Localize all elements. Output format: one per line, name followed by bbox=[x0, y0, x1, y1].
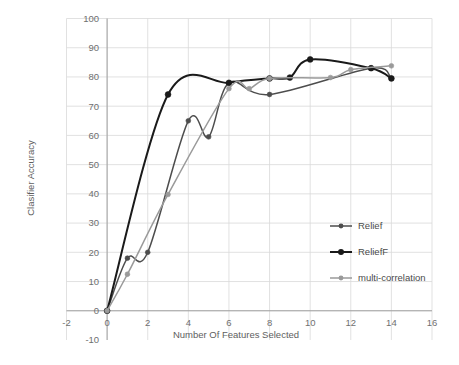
data-point-marker bbox=[328, 75, 333, 80]
chart-legend: ReliefReliefFmulti-correlation bbox=[330, 220, 426, 283]
y-axis-title: Clasifier Accuracy bbox=[25, 140, 36, 216]
x-tick-label: 8 bbox=[267, 317, 272, 328]
x-tick-label: 16 bbox=[427, 317, 438, 328]
data-point-marker bbox=[389, 63, 394, 68]
data-point-marker bbox=[125, 272, 130, 277]
y-tick-label: 20 bbox=[89, 247, 100, 258]
data-point-marker bbox=[206, 134, 211, 139]
x-tick-label: 6 bbox=[226, 317, 231, 328]
y-tick-label: 60 bbox=[89, 130, 100, 141]
y-tick-label: 30 bbox=[89, 217, 100, 228]
x-tick-label: 12 bbox=[345, 317, 356, 328]
legend-label: ReliefF bbox=[358, 246, 388, 257]
line-chart: -100102030405060708090100 -2024681012141… bbox=[0, 0, 459, 365]
x-axis-tick-labels: -20246810121416 bbox=[62, 317, 437, 328]
legend-item-relief[interactable]: Relief bbox=[330, 220, 383, 231]
series-line bbox=[107, 66, 391, 311]
data-point-marker bbox=[145, 250, 150, 255]
data-point-marker bbox=[267, 92, 272, 97]
y-tick-label: 80 bbox=[89, 71, 100, 82]
y-tick-label: -10 bbox=[85, 334, 99, 345]
y-tick-label: 40 bbox=[89, 188, 100, 199]
x-tick-label: 4 bbox=[186, 317, 191, 328]
x-tick-label: 14 bbox=[386, 317, 397, 328]
y-axis-tick-labels: -100102030405060708090100 bbox=[83, 13, 99, 346]
legend-marker-swatch bbox=[339, 276, 344, 281]
y-tick-label: 70 bbox=[89, 101, 100, 112]
legend-item-relieff[interactable]: ReliefF bbox=[330, 246, 388, 257]
x-axis-title: Number Of Features Selected bbox=[173, 329, 299, 340]
data-point-marker bbox=[166, 192, 171, 197]
data-point-marker bbox=[307, 57, 313, 63]
data-point-marker bbox=[165, 92, 171, 98]
y-tick-label: 90 bbox=[89, 42, 100, 53]
series-line bbox=[107, 68, 391, 311]
x-tick-label: -2 bbox=[62, 317, 70, 328]
x-tick-label: 10 bbox=[305, 317, 316, 328]
data-point-marker bbox=[105, 308, 110, 313]
data-point-marker bbox=[186, 118, 191, 123]
data-point-marker bbox=[247, 86, 252, 91]
legend-label: multi-correlation bbox=[358, 272, 426, 283]
y-tick-label: 10 bbox=[89, 276, 100, 287]
y-tick-label: 50 bbox=[89, 159, 100, 170]
data-point-marker bbox=[125, 256, 130, 261]
legend-label: Relief bbox=[358, 220, 383, 231]
legend-marker-swatch bbox=[339, 224, 344, 229]
data-point-marker bbox=[348, 67, 353, 72]
y-tick-label: 100 bbox=[83, 13, 99, 24]
x-tick-label: 0 bbox=[104, 317, 109, 328]
legend-marker-swatch bbox=[338, 249, 344, 255]
x-tick-label: 2 bbox=[145, 317, 150, 328]
chart-container: -100102030405060708090100 -2024681012141… bbox=[0, 0, 459, 365]
data-point-marker bbox=[267, 76, 272, 81]
data-point-marker bbox=[227, 86, 232, 91]
data-point-marker bbox=[226, 80, 232, 86]
series-line bbox=[107, 59, 391, 311]
data-point-marker bbox=[388, 76, 394, 82]
y-tick-label: 0 bbox=[94, 305, 99, 316]
